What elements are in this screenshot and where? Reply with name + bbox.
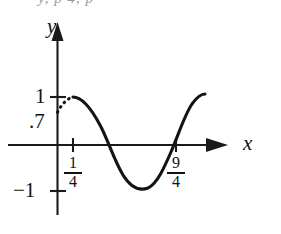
graph-figure: y, p 4, p y x 1 .7 −1 1 4	[0, 0, 281, 234]
x-tick-one-quarter-denominator: 4	[64, 174, 82, 190]
x-tick-nine-quarters-numerator: 9	[167, 155, 185, 171]
x-tick-label-one-quarter: 1 4	[64, 155, 82, 191]
y-tick-label-minus-1: −1	[13, 180, 35, 201]
x-axis-arrowhead	[206, 138, 228, 152]
x-tick-label-nine-quarters: 9 4	[167, 155, 185, 191]
x-tick-nine-quarters-denominator: 4	[167, 174, 185, 190]
y-tick-label-point-seven: .7	[29, 111, 45, 132]
curve-main	[73, 94, 205, 189]
y-axis-label: y	[47, 16, 56, 37]
y-tick-label-1: 1	[35, 86, 46, 107]
x-axis-label: x	[243, 133, 252, 154]
curve-dotted-segment	[58, 97, 74, 112]
x-tick-one-quarter-numerator: 1	[64, 155, 82, 171]
